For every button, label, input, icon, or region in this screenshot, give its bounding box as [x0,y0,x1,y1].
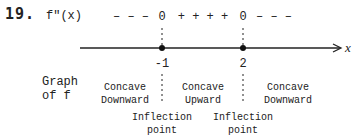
interval-concave-upward: Concave Upward [182,81,224,107]
point-dot-neg1 [159,45,165,51]
inflection-point-label-neg1: Inflection point [127,111,197,137]
sign-negative-right: – – – [256,10,292,24]
zero-marker-2: 0 [239,10,246,24]
graph-label-line1: Graph [42,75,78,89]
graph-of-f-label: Graph of f [42,75,78,103]
interval-3-line2: Downward [264,94,312,107]
interval-concave-downward-right: Concave Downward [264,81,312,107]
interval-2-line1: Concave [182,81,224,94]
tick-label-neg1: -1 [155,57,169,71]
inflection-point-label-2: Inflection point [208,111,278,137]
interval-1-line2: Downward [101,94,149,107]
axis-variable-label: x [345,40,351,56]
interval-2-line2: Upward [182,94,224,107]
sign-negative-left: – – – [113,10,149,24]
tick-label-2: 2 [239,57,246,71]
problem-number: 19. [5,5,35,23]
graph-label-line2: of f [42,89,78,103]
interval-1-line1: Concave [101,81,149,94]
zero-marker-1: 0 [158,10,165,24]
sign-positive-middle: + + + + [178,10,228,24]
point-dot-2 [240,45,246,51]
interval-concave-downward-left: Concave Downward [101,81,149,107]
interval-3-line1: Concave [264,81,312,94]
second-derivative-label: f″(x) [46,9,82,23]
